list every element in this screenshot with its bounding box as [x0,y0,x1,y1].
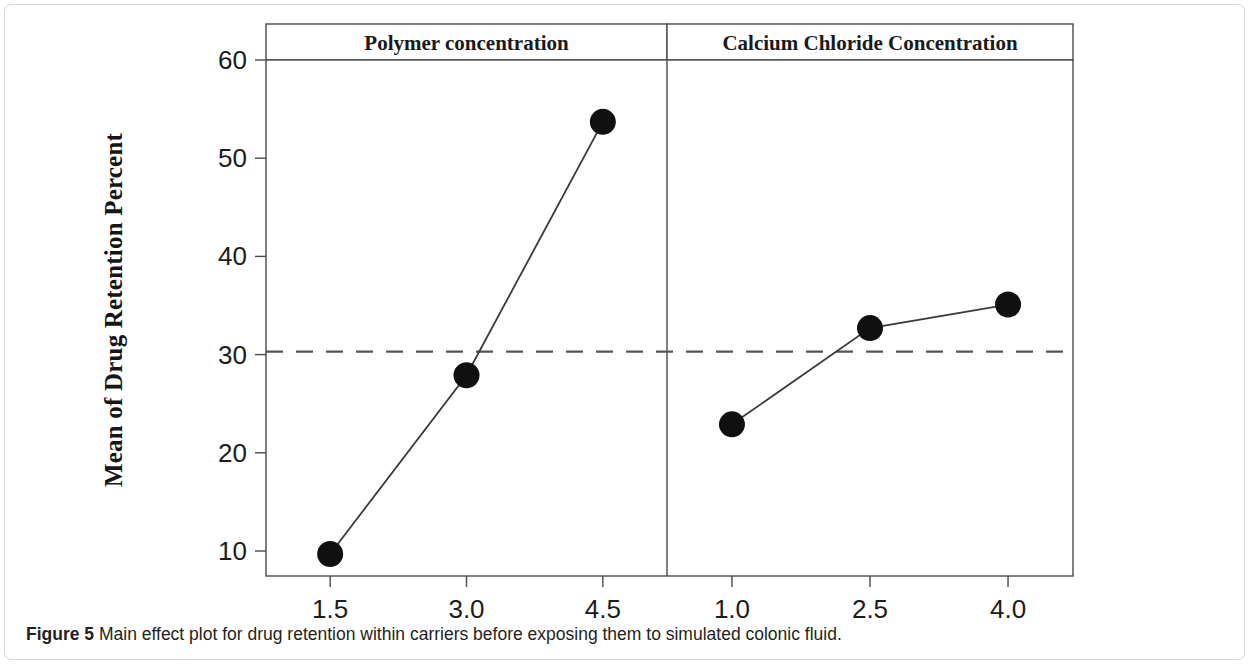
figure-root: Mean of Drug Retention Percent Polymer c… [0,0,1249,664]
data-point-marker [857,315,883,341]
figure-caption: Figure 5 Main effect plot for drug reten… [26,624,1226,646]
x-tick-label: 2.5 [835,596,905,622]
figure-caption-label: Figure 5 [26,624,94,644]
x-tick-label: 4.0 [973,596,1043,622]
y-tick-label: 40 [193,243,247,269]
y-axis-ticks [255,60,266,551]
data-point-marker [719,411,745,437]
x-tick-label: 3.0 [432,596,502,622]
data-point-marker [995,292,1021,318]
plot-frame [266,60,1073,576]
panel-title-polymer-concentration: Polymer concentration [266,33,667,54]
data-point-marker [317,541,343,567]
data-point-marker [454,362,480,388]
x-axis-ticks [330,576,1008,587]
panel-title-calcium-chloride-concentration: Calcium Chloride Concentration [667,33,1073,54]
y-tick-label: 20 [193,440,247,466]
x-tick-label: 1.5 [295,596,365,622]
x-tick-label: 1.0 [697,596,767,622]
chart-canvas [0,0,1249,612]
y-tick-label: 10 [193,538,247,564]
x-tick-label: 4.5 [568,596,638,622]
main-effect-plot: Mean of Drug Retention Percent Polymer c… [0,0,1249,612]
y-tick-label: 30 [193,342,247,368]
y-tick-label: 60 [193,47,247,73]
y-tick-label: 50 [193,145,247,171]
figure-caption-text: Main effect plot for drug retention with… [99,624,842,644]
data-point-marker [590,109,616,135]
